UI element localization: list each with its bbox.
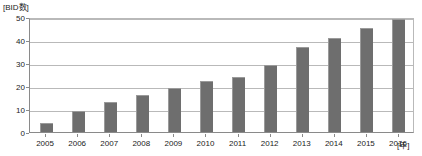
x-axis-tick-label: 2006 <box>68 139 86 148</box>
x-axis-tick-mark <box>45 134 46 137</box>
bar <box>104 102 117 132</box>
y-axis-tick-labels: 01020304050 <box>0 0 29 156</box>
y-axis-tick-label: 20 <box>16 83 25 92</box>
x-axis-tick-mark <box>334 134 335 137</box>
bar <box>392 19 405 132</box>
bar <box>200 81 213 132</box>
x-axis-tick-label: 2005 <box>36 139 54 148</box>
bar <box>136 95 149 132</box>
x-axis-tick-label: 2007 <box>100 139 118 148</box>
bar <box>40 123 53 132</box>
x-axis-tick-label: 2014 <box>325 139 343 148</box>
x-axis-tick-mark <box>366 134 367 137</box>
y-axis-tick-mark <box>26 133 29 134</box>
bar <box>168 88 181 132</box>
x-axis-tick-mark <box>302 134 303 137</box>
x-axis-tick-label: 2011 <box>229 139 246 148</box>
bar <box>360 28 373 132</box>
x-axis-tick-mark <box>270 134 271 137</box>
y-axis-tick-label: 40 <box>16 37 25 46</box>
bar <box>296 47 309 132</box>
plot-area <box>29 18 414 133</box>
y-axis-tick-label: 10 <box>16 106 25 115</box>
x-axis-tick-mark <box>238 134 239 137</box>
x-axis-tick-mark <box>109 134 110 137</box>
bar <box>264 65 277 132</box>
y-axis-tick-label: 50 <box>16 14 25 23</box>
x-axis-tick-label: 2012 <box>261 139 279 148</box>
bar-chart: [BID数] 01020304050 200520062007200820092… <box>0 0 422 156</box>
y-axis-tick-label: 0 <box>21 129 25 138</box>
y-axis-tick-label: 30 <box>16 60 25 69</box>
x-axis-tick-label: 2013 <box>293 139 311 148</box>
x-axis-tick-mark <box>77 134 78 137</box>
bar <box>328 38 341 132</box>
x-axis-tick-mark <box>141 134 142 137</box>
bar <box>232 77 245 132</box>
x-axis-tick-label: 2010 <box>197 139 215 148</box>
x-axis-tick-mark <box>173 134 174 137</box>
x-axis-tick-label: 2009 <box>164 139 182 148</box>
bar <box>72 111 85 132</box>
x-axis-tick-label: 2008 <box>132 139 150 148</box>
x-axis-tick-mark <box>205 134 206 137</box>
bars-layer <box>30 19 413 132</box>
x-axis-tick-label: 2015 <box>357 139 375 148</box>
x-axis-tick-mark <box>398 134 399 137</box>
x-axis-unit-label: [年] <box>397 139 409 150</box>
x-axis-tick-labels: 2005200620072008200920102011201220132014… <box>29 135 414 155</box>
